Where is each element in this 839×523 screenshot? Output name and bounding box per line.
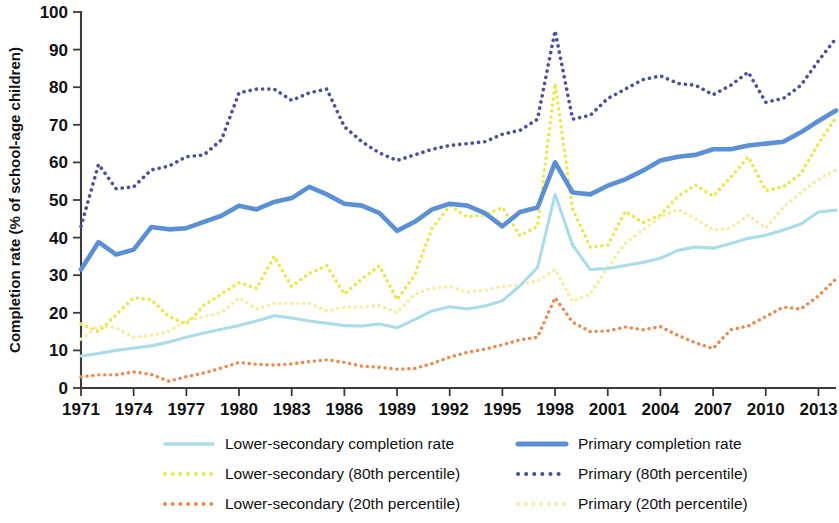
- legend-label-pri_rate: Primary completion rate: [578, 435, 742, 452]
- y-tick-label: 60: [49, 153, 68, 172]
- y-tick-label: 50: [49, 191, 68, 210]
- x-tick-label: 1980: [220, 400, 258, 419]
- x-axis-ticks: 1971197419771980198319861989199219951998…: [62, 388, 837, 419]
- y-tick-label: 70: [49, 116, 68, 135]
- y-tick-label: 10: [49, 341, 68, 360]
- x-tick-label: 1992: [431, 400, 469, 419]
- completion-rate-chart: Completion rate (% of school-age childre…: [0, 0, 839, 523]
- legend-label-ls_p80: Lower-secondary (80th percentile): [225, 465, 460, 482]
- y-tick-label: 80: [49, 78, 68, 97]
- chart-legend: Lower-secondary completion ratePrimary c…: [165, 435, 748, 512]
- x-tick-label: 2007: [694, 400, 732, 419]
- series-line-pri_p80: [81, 31, 836, 227]
- axis-lines: [81, 11, 836, 388]
- x-tick-label: 1995: [483, 400, 521, 419]
- x-tick-label: 1971: [62, 400, 100, 419]
- x-tick-label: 1986: [325, 400, 363, 419]
- y-axis-ticks: 0102030405060708090100: [40, 3, 81, 398]
- x-tick-label: 2013: [800, 400, 838, 419]
- x-tick-label: 1977: [167, 400, 205, 419]
- y-tick-label: 0: [59, 379, 68, 398]
- x-tick-label: 1989: [378, 400, 416, 419]
- x-tick-label: 2004: [642, 400, 680, 419]
- y-tick-label: 20: [49, 304, 68, 323]
- series-line-ls_p80: [81, 83, 836, 331]
- x-tick-label: 2010: [747, 400, 785, 419]
- legend-label-ls_rate: Lower-secondary completion rate: [225, 435, 454, 452]
- series-line-ls_p20: [81, 279, 836, 381]
- y-tick-label: 100: [40, 3, 68, 22]
- legend-label-pri_p20: Primary (20th percentile): [578, 495, 748, 512]
- y-tick-label: 30: [49, 266, 68, 285]
- y-tick-label: 40: [49, 229, 68, 248]
- x-tick-label: 1974: [115, 400, 153, 419]
- series-line-ls_rate: [81, 194, 836, 356]
- series-group: [81, 31, 836, 381]
- legend-label-ls_p20: Lower-secondary (20th percentile): [225, 495, 460, 512]
- chart-canvas: Completion rate (% of school-age childre…: [0, 0, 839, 523]
- x-tick-label: 2001: [589, 400, 627, 419]
- legend-label-pri_p80: Primary (80th percentile): [578, 465, 748, 482]
- y-axis-label: Completion rate (% of school-age childre…: [6, 47, 23, 353]
- y-tick-label: 90: [49, 41, 68, 60]
- x-tick-label: 1998: [536, 400, 574, 419]
- x-tick-label: 1983: [273, 400, 311, 419]
